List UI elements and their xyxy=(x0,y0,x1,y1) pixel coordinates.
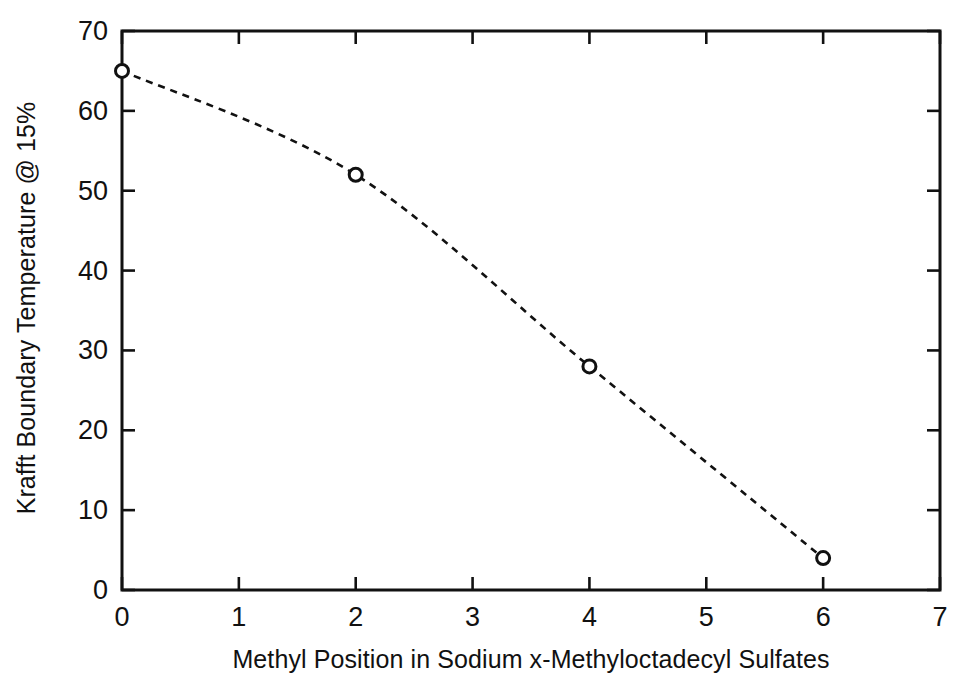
series-markers xyxy=(116,64,830,564)
y-tick-label: 0 xyxy=(93,577,108,604)
y-tick-label: 20 xyxy=(78,417,108,444)
x-tick-label: 3 xyxy=(465,604,480,631)
y-tick-label: 70 xyxy=(78,18,108,45)
y-tick-label: 10 xyxy=(78,497,108,524)
y-tick-label: 40 xyxy=(78,257,108,284)
y-tick-label: 50 xyxy=(78,177,108,204)
chart-figure: Krafft Boundary Temperature @ 15% Methyl… xyxy=(0,0,966,692)
x-tick-label: 5 xyxy=(699,604,714,631)
x-tick-label: 0 xyxy=(114,604,129,631)
y-tick-label: 30 xyxy=(78,337,108,364)
y-tick-label: 60 xyxy=(78,97,108,124)
x-tick-label: 1 xyxy=(231,604,246,631)
x-tick-label: 2 xyxy=(348,604,363,631)
series-line-krafft xyxy=(122,71,823,558)
y-axis-title: Krafft Boundary Temperature @ 15% xyxy=(8,28,44,588)
plot-frame xyxy=(122,31,940,590)
plot-area xyxy=(0,0,966,692)
x-tick-label: 6 xyxy=(816,604,831,631)
x-tick-label: 7 xyxy=(932,604,947,631)
axis-ticks xyxy=(122,31,940,590)
x-axis-title: Methyl Position in Sodium x-Methyloctade… xyxy=(122,645,940,674)
x-tick-label: 4 xyxy=(582,604,597,631)
